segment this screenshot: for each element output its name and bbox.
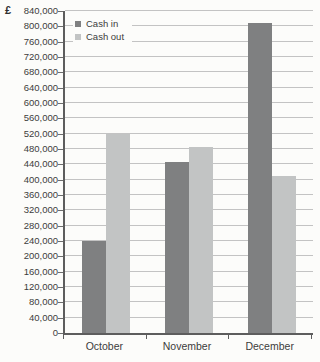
y-tick-label-200000: 200,000 xyxy=(2,250,58,262)
legend-label-cash-in: Cash in xyxy=(86,18,118,29)
y-tick-label-160000: 160,000 xyxy=(2,266,58,278)
x-tick-mark xyxy=(146,334,147,339)
y-tick-label-80000: 80,000 xyxy=(2,296,58,308)
x-tick-mark xyxy=(63,334,64,339)
y-tick-label-560000: 560,000 xyxy=(2,112,58,124)
bar-cash-in-december xyxy=(248,23,272,334)
cash-flow-bar-chart: £ 040,00080,000120,000160,000200,000240,… xyxy=(0,0,320,362)
y-tick-label-600000: 600,000 xyxy=(2,97,58,109)
gridline-560000 xyxy=(65,117,313,118)
gridline-840000 xyxy=(65,10,313,11)
bar-cash-out-december xyxy=(272,176,296,333)
y-tick-label-360000: 360,000 xyxy=(2,189,58,201)
y-tick-label-720000: 720,000 xyxy=(2,51,58,63)
legend-item-cash-out: Cash out xyxy=(75,30,124,43)
gridline-640000 xyxy=(65,87,313,88)
y-tick-label-760000: 760,000 xyxy=(2,36,58,48)
y-tick-label-440000: 440,000 xyxy=(2,158,58,170)
x-category-label-december: December xyxy=(228,340,311,353)
y-tick-label-0: 0 xyxy=(2,327,58,339)
x-category-label-november: November xyxy=(146,340,229,353)
x-category-label-october: October xyxy=(63,340,146,353)
x-tick-mark xyxy=(311,334,312,339)
bar-cash-in-november xyxy=(165,162,189,333)
y-tick-label-520000: 520,000 xyxy=(2,128,58,140)
y-tick-label-680000: 680,000 xyxy=(2,66,58,78)
bar-cash-in-october xyxy=(82,241,106,333)
y-tick-label-320000: 320,000 xyxy=(2,204,58,216)
bar-cash-out-october xyxy=(106,134,130,333)
y-tick-label-40000: 40,000 xyxy=(2,312,58,324)
y-tick-label-800000: 800,000 xyxy=(2,20,58,32)
y-tick-label-240000: 240,000 xyxy=(2,235,58,247)
gridline-520000 xyxy=(65,133,313,134)
y-tick-label-120000: 120,000 xyxy=(2,281,58,293)
gridline-680000 xyxy=(65,71,313,72)
cash-in-swatch-icon xyxy=(75,21,81,27)
legend: Cash in Cash out xyxy=(73,15,132,45)
x-tick-mark xyxy=(228,334,229,339)
bar-cash-out-november xyxy=(189,147,213,333)
legend-label-cash-out: Cash out xyxy=(86,31,124,42)
legend-item-cash-in: Cash in xyxy=(75,17,124,30)
y-tick-label-280000: 280,000 xyxy=(2,220,58,232)
plot-area: Cash in Cash out xyxy=(63,11,313,335)
gridline-600000 xyxy=(65,102,313,103)
gridline-720000 xyxy=(65,56,313,57)
y-tick-label-840000: 840,000 xyxy=(2,5,58,17)
cash-out-swatch-icon xyxy=(75,34,81,40)
y-tick-label-640000: 640,000 xyxy=(2,82,58,94)
y-tick-label-480000: 480,000 xyxy=(2,143,58,155)
y-tick-label-400000: 400,000 xyxy=(2,174,58,186)
